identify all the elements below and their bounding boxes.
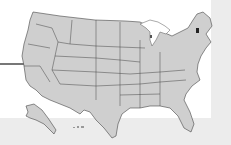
- us-map: [0, 0, 231, 145]
- contiguous-us[interactable]: [22, 12, 212, 138]
- marker-dot: [150, 35, 152, 38]
- state-vermont-highlight[interactable]: [196, 28, 199, 33]
- alaska[interactable]: [26, 104, 56, 134]
- hawaii[interactable]: [73, 126, 84, 128]
